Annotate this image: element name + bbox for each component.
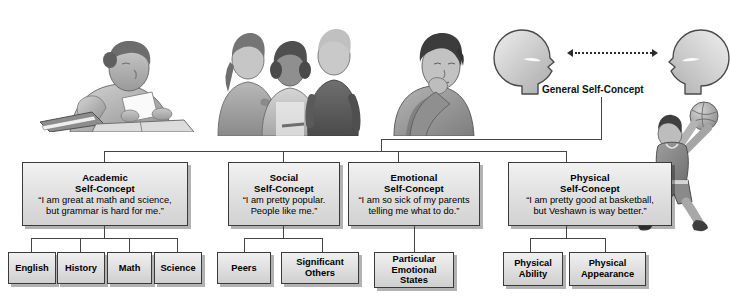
branch-drop-academic bbox=[104, 151, 105, 162]
node-emotional-self-concept[interactable]: Emotional Self-Concept “I am so sick of … bbox=[348, 162, 480, 226]
head-silhouette-right bbox=[655, 26, 731, 100]
general-self-concept-label: General Self-Concept bbox=[542, 84, 644, 95]
leaf-science[interactable]: Science bbox=[154, 252, 202, 284]
physical-child-bar bbox=[530, 238, 606, 239]
dotted-connector bbox=[575, 52, 655, 54]
pensive-person-illustration bbox=[386, 18, 486, 136]
node-academic-quote: “I am great at math and science, but gra… bbox=[38, 195, 171, 217]
academic-stem bbox=[104, 226, 105, 238]
leaf-peers[interactable]: Peers bbox=[217, 252, 271, 284]
social-drop-peers bbox=[244, 238, 245, 252]
node-physical-title: Physical Self-Concept bbox=[560, 172, 620, 194]
leaf-physical-appearance[interactable]: Physical Appearance bbox=[569, 252, 646, 286]
branch-drop-social bbox=[283, 151, 284, 162]
node-academic-title: Academic Self-Concept bbox=[75, 172, 135, 194]
student-studying-illustration bbox=[34, 12, 204, 132]
root-stem-horizontal bbox=[381, 139, 602, 140]
physical-stem bbox=[566, 226, 567, 238]
branch-drop-emotional bbox=[398, 151, 399, 162]
academic-drop-english bbox=[31, 238, 32, 252]
node-emotional-title: Emotional Self-Concept bbox=[384, 172, 444, 194]
leaf-particular-emotional-states[interactable]: Particular Emotional States bbox=[374, 252, 454, 288]
social-drop-significant-others bbox=[322, 238, 323, 252]
social-stem bbox=[283, 226, 284, 238]
node-physical-self-concept[interactable]: Physical Self-Concept “I am pretty good … bbox=[508, 162, 672, 226]
academic-drop-science bbox=[177, 238, 178, 252]
trunk-drop-vertical bbox=[381, 139, 382, 151]
node-emotional-quote: “I am so sick of my parents telling me w… bbox=[358, 195, 469, 217]
academic-drop-math bbox=[129, 238, 130, 252]
arrow-left-head bbox=[567, 49, 573, 57]
node-academic-self-concept[interactable]: Academic Self-Concept “I am great at mat… bbox=[22, 162, 188, 226]
root-stem-vertical bbox=[601, 97, 602, 139]
social-child-bar bbox=[244, 238, 323, 239]
leaf-significant-others[interactable]: Significant Others bbox=[281, 252, 359, 284]
teens-group-illustration bbox=[204, 10, 362, 136]
arrow-right-head bbox=[652, 49, 658, 57]
branch-drop-physical bbox=[566, 151, 567, 162]
node-physical-quote: “I am pretty good at basketball, but Ves… bbox=[526, 195, 654, 217]
leaf-history[interactable]: History bbox=[57, 252, 105, 284]
academic-drop-history bbox=[80, 238, 81, 252]
node-social-quote: “I am pretty popular. People like me.” bbox=[243, 195, 326, 217]
node-social-title: Social Self-Concept bbox=[254, 172, 314, 194]
node-social-self-concept[interactable]: Social Self-Concept “I am pretty popular… bbox=[228, 162, 340, 226]
physical-drop-ability bbox=[530, 238, 531, 252]
main-trunk-line bbox=[104, 151, 566, 152]
leaf-english[interactable]: English bbox=[8, 252, 56, 284]
academic-child-bar bbox=[31, 238, 177, 239]
physical-drop-appearance bbox=[605, 238, 606, 252]
self-concept-diagram: General Self-Concept Academic Self-Conce… bbox=[0, 0, 731, 307]
leaf-math[interactable]: Math bbox=[107, 252, 152, 284]
leaf-physical-ability[interactable]: Physical Ability bbox=[503, 252, 563, 286]
emotional-stem bbox=[414, 226, 415, 252]
